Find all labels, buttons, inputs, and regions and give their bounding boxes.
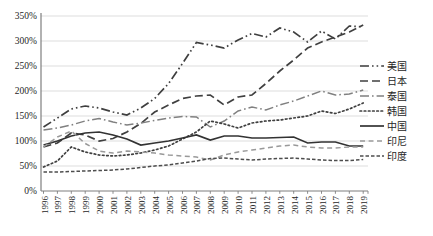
line-chart: 0%50%100%150%200%250%300%350%19961997199… (0, 0, 433, 236)
x-tick-label: 2005 (165, 196, 175, 215)
y-tick-label: 0% (24, 186, 37, 196)
x-tick-label: 1999 (81, 196, 91, 215)
x-tick-label: 2019 (359, 196, 369, 215)
plot-svg: 0%50%100%150%200%250%300%350%19961997199… (0, 0, 433, 236)
x-tick-label: 2000 (95, 196, 105, 215)
legend-label-3: 韩国 (387, 105, 407, 117)
x-tick-label: 2009 (220, 196, 230, 215)
x-tick-label: 2004 (151, 196, 161, 215)
series-line-2 (44, 90, 364, 130)
x-tick-label: 2018 (345, 196, 355, 215)
legend-label-4: 中国 (387, 120, 407, 132)
y-tick-label: 50% (20, 161, 38, 171)
x-tick-label: 1996 (40, 196, 50, 215)
y-tick-label: 350% (15, 11, 37, 21)
y-tick-label: 150% (15, 111, 37, 121)
legend-label-2: 泰国 (387, 90, 407, 102)
legend-label-5: 印尼 (387, 136, 407, 147)
x-tick-label: 2001 (109, 196, 119, 214)
x-tick-label: 2006 (179, 196, 189, 215)
x-tick-label: 1997 (53, 196, 63, 215)
series-line-6 (44, 158, 364, 172)
y-tick-label: 300% (15, 36, 37, 46)
x-tick-label: 2012 (262, 196, 272, 214)
series-line-5 (44, 131, 364, 160)
series-line-4 (44, 132, 364, 146)
x-tick-label: 2003 (137, 196, 147, 215)
x-tick-label: 2011 (248, 196, 258, 214)
x-tick-label: 2016 (318, 196, 328, 215)
legend-label-0: 美国 (387, 60, 407, 72)
x-tick-label: 2007 (192, 196, 202, 215)
series-line-3 (44, 103, 364, 167)
x-tick-label: 2002 (123, 196, 133, 214)
x-tick-label: 2015 (304, 196, 314, 215)
x-tick-label: 2017 (331, 196, 341, 215)
legend-label-6: 印度 (387, 150, 407, 162)
x-tick-label: 2013 (276, 196, 286, 215)
x-tick-label: 2008 (206, 196, 216, 215)
x-tick-label: 1998 (67, 196, 77, 215)
y-tick-label: 250% (15, 61, 37, 71)
x-tick-label: 2010 (234, 196, 244, 215)
y-tick-label: 200% (15, 86, 37, 96)
y-tick-label: 100% (15, 136, 37, 146)
legend-label-1: 日本 (387, 75, 407, 87)
x-tick-label: 2014 (290, 196, 300, 215)
